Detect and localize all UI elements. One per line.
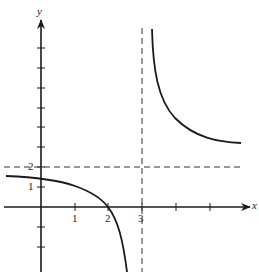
- graph-canvas: [0, 0, 259, 278]
- x-tick-label-2: 2: [105, 213, 111, 224]
- x-tick-label-3: 3: [138, 213, 144, 224]
- y-tick-label-1: 1: [28, 181, 34, 192]
- curve-right-branch: [152, 29, 241, 143]
- x-tick-label-1: 1: [72, 213, 78, 224]
- y-tick-label-2: 2: [28, 161, 34, 172]
- curve-left-branch: [6, 176, 127, 272]
- x-axis-label: x: [252, 200, 257, 211]
- y-axis-label: y: [37, 6, 42, 17]
